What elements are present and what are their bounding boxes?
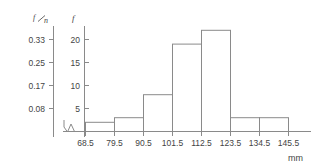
right-tick-label-1: 15 [71,58,81,68]
histogram-bar [202,30,231,131]
histogram-bar [115,118,144,132]
left-axis: 0.33 0.25 0.17 0.08 f n [28,13,53,137]
left-tick-label-0: 0.33 [28,35,45,45]
x-tick-label-5: 123.5 [220,138,242,148]
right-tick-label-3: 5 [75,104,80,114]
right-tick-label-2: 10 [71,81,81,91]
x-tick-label-7: 145.5 [278,138,300,148]
x-tick-label-4: 112.5 [191,138,212,148]
left-axis-title-numerator: f [33,13,37,22]
chart-svg: 0.33 0.25 0.17 0.08 f n 20 15 10 5 f [0,0,313,167]
right-axis-title: f [72,13,76,23]
histogram-bar [144,95,173,132]
x-axis-unit-label: mm [288,153,303,163]
histogram-bar [86,122,115,131]
x-tick-marks [86,132,289,137]
right-tick-label-0: 20 [71,35,81,45]
left-axis-title-denominator: n [44,16,48,25]
x-tick-label-1: 79.5 [106,138,123,148]
x-tick-label-2: 90.5 [135,138,152,148]
histogram-bar [260,118,289,132]
x-tick-label-0: 68.5 [77,138,94,148]
histogram-bar [231,118,260,132]
histogram-chart: 0.33 0.25 0.17 0.08 f n 20 15 10 5 f [0,0,313,167]
histogram-bars [86,30,289,131]
right-axis: 20 15 10 5 f [71,13,89,137]
x-tick-labels: 68.5 79.5 90.5 101.5 112.5 123.5 134.5 1… [77,138,299,148]
histogram-bar [173,44,202,131]
x-tick-label-6: 134.5 [249,138,271,148]
left-axis-title: f n [33,13,48,25]
left-tick-label-3: 0.08 [28,104,45,114]
left-tick-label-1: 0.25 [28,58,45,68]
x-tick-label-3: 101.5 [162,138,184,148]
axis-break-icon [64,120,78,132]
left-tick-label-2: 0.17 [28,81,45,91]
